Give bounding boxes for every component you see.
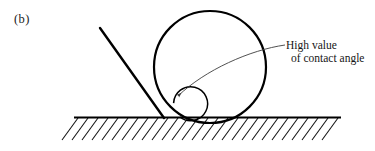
annotation-line-1: High value	[286, 39, 364, 52]
panel-label: (b)	[14, 12, 30, 27]
contact-angle-arc	[174, 87, 208, 121]
annotation-leader-line	[178, 45, 285, 96]
contact-angle-figure: (b) High value of contact angle	[0, 0, 375, 151]
annotation-label: High value of contact angle	[286, 39, 364, 65]
figure-drawing	[0, 0, 375, 151]
liquid-droplet	[154, 11, 266, 123]
annotation-line-2: of contact angle	[286, 52, 364, 65]
